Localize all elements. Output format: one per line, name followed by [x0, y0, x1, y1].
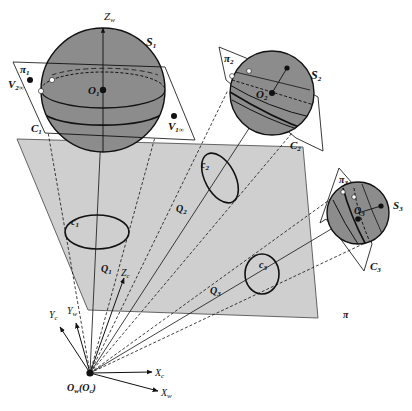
label-yc: Yc [49, 309, 59, 322]
label-xw: Xw [160, 387, 172, 400]
label-pi: π [343, 309, 349, 320]
origin-point [86, 369, 93, 376]
diagram-canvas: Zw S1 π1 V2∞ O1 V1∞ C1 π2 S2 O2 C2 π3 O3… [0, 0, 412, 411]
label-C2: C2 [290, 139, 301, 153]
label-C1: C1 [31, 122, 42, 136]
label-s3: S3 [393, 199, 403, 213]
label-s2: S2 [311, 68, 322, 83]
label-C3: C3 [370, 260, 381, 274]
label-s1: S1 [146, 35, 156, 50]
label-xc: Xc [154, 367, 165, 380]
image-plane [17, 139, 318, 318]
label-yw: Yw [67, 305, 78, 318]
vanishing-point-v1 [171, 113, 177, 119]
vanishing-point-v2 [27, 77, 33, 83]
label-zw: Zw [104, 10, 115, 24]
label-origin: Ow(Oc) [67, 382, 96, 395]
